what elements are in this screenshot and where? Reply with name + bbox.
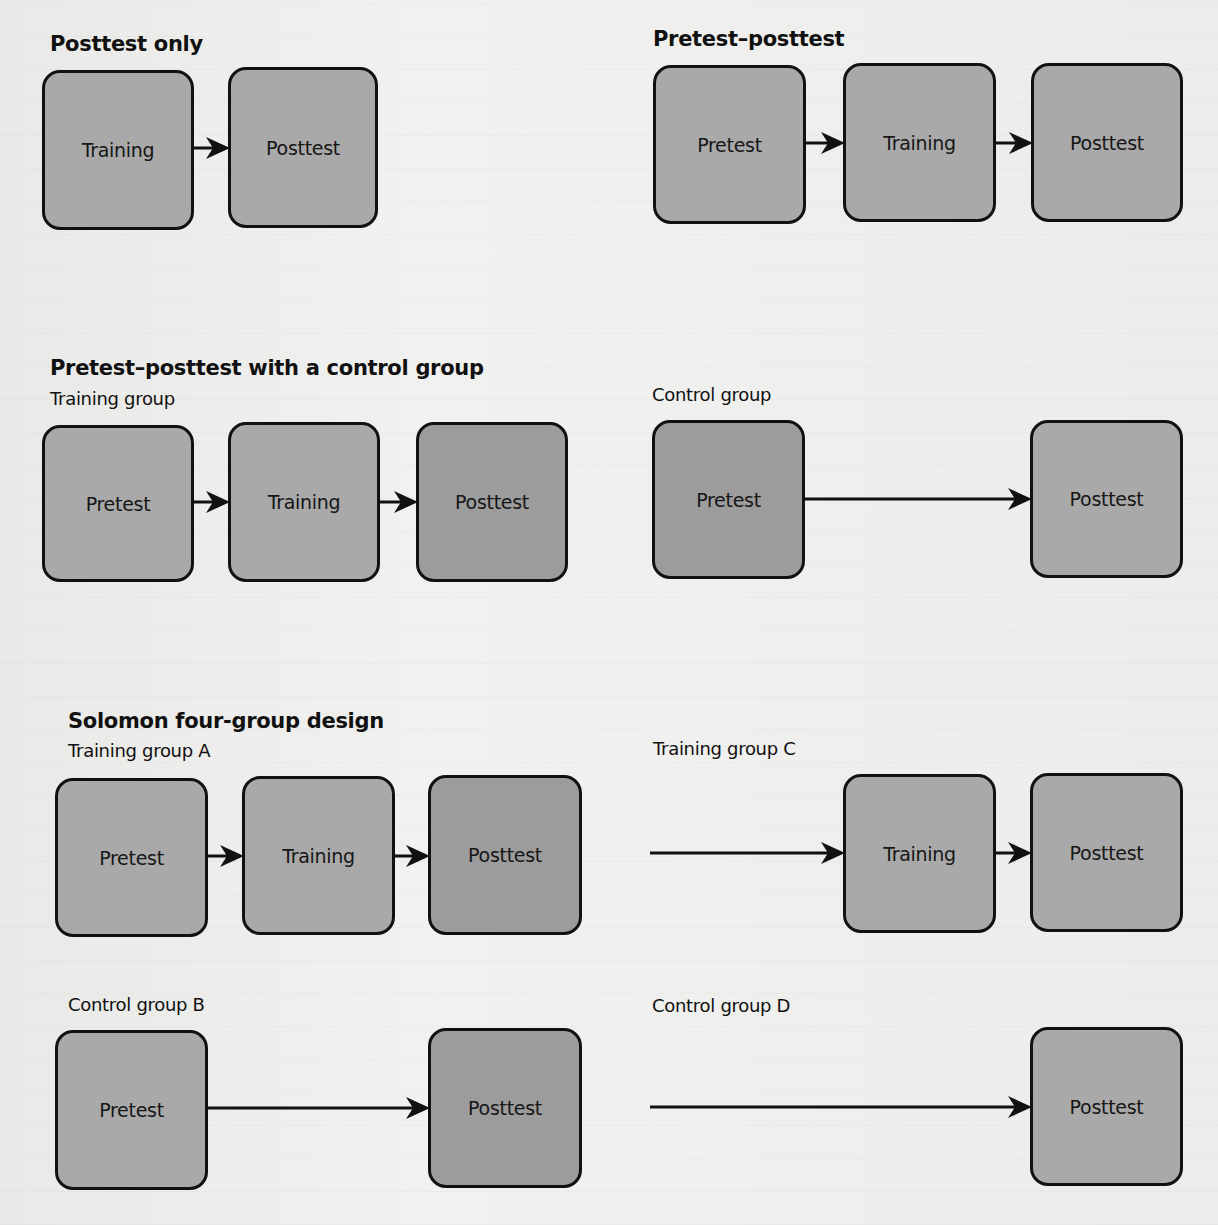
stage-box-pretest: Pretest xyxy=(55,1030,208,1190)
stage-box-pretest: Pretest xyxy=(55,778,208,937)
stage-label: Posttest xyxy=(468,1097,542,1119)
stage-label: Training xyxy=(282,845,355,867)
stage-box-training: Training xyxy=(242,776,395,935)
stage-label: Training xyxy=(883,843,956,865)
stage-label: Training xyxy=(82,139,155,161)
stage-label: Posttest xyxy=(266,137,340,159)
stage-label: Training xyxy=(883,132,956,154)
stage-label: Pretest xyxy=(697,134,762,156)
panel-title-pretest-posttest-control: Pretest–posttest with a control group xyxy=(50,358,484,379)
group-label: Training group C xyxy=(653,740,796,758)
stage-box-posttest: Posttest xyxy=(416,422,568,582)
stage-label: Training xyxy=(268,491,341,513)
stage-label: Posttest xyxy=(1070,132,1144,154)
stage-label: Pretest xyxy=(696,489,761,511)
stage-box-posttest: Posttest xyxy=(1031,63,1183,222)
stage-box-training: Training xyxy=(42,70,194,230)
stage-label: Posttest xyxy=(455,491,529,513)
stage-label: Pretest xyxy=(86,493,151,515)
panel-title-solomon-four-group: Solomon four-group design xyxy=(68,711,384,732)
panel-title-posttest-only: Posttest only xyxy=(50,34,203,55)
stage-box-posttest: Posttest xyxy=(1030,773,1183,932)
stage-box-posttest: Posttest xyxy=(1030,420,1183,578)
stage-box-training: Training xyxy=(843,774,996,933)
stage-box-training: Training xyxy=(228,422,380,582)
stage-label: Pretest xyxy=(99,1099,164,1121)
stage-box-posttest: Posttest xyxy=(228,67,378,228)
panel-title-pretest-posttest: Pretest–posttest xyxy=(653,29,844,50)
stage-label: Posttest xyxy=(1070,1096,1144,1118)
stage-box-pretest: Pretest xyxy=(652,420,805,579)
stage-label: Pretest xyxy=(99,847,164,869)
stage-box-posttest: Posttest xyxy=(428,775,582,935)
stage-label: Posttest xyxy=(1070,842,1144,864)
stage-box-training: Training xyxy=(843,63,996,222)
group-label: Control group D xyxy=(652,997,790,1015)
stage-box-pretest: Pretest xyxy=(42,425,194,582)
group-label: Control group xyxy=(652,386,771,404)
group-label: Training group A xyxy=(68,742,210,760)
group-label: Control group B xyxy=(68,996,205,1014)
stage-box-posttest: Posttest xyxy=(428,1028,582,1188)
stage-label: Posttest xyxy=(1070,488,1144,510)
stage-box-posttest: Posttest xyxy=(1030,1027,1183,1186)
group-label: Training group xyxy=(50,390,175,408)
stage-label: Posttest xyxy=(468,844,542,866)
stage-box-pretest: Pretest xyxy=(653,65,806,224)
